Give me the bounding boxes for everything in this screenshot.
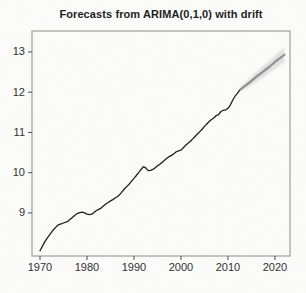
forecast-figure: Forecasts from ARIMA(0,1,0) with drift 1… <box>0 0 306 293</box>
scan-noise-overlay <box>0 0 306 293</box>
forecast-chart-svg: 197019801990200020102020910111213 <box>0 0 306 293</box>
